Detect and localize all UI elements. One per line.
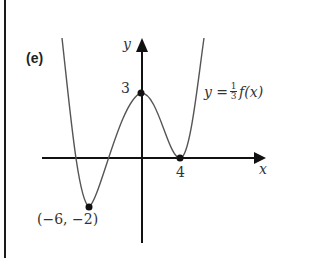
y-tick-3: 3 xyxy=(121,80,130,96)
eq-prefix: y = xyxy=(204,84,228,100)
eq-suffix: f(x) xyxy=(239,84,263,100)
min-point-label: (−6, −2) xyxy=(37,211,98,227)
eq-frac-den: 3 xyxy=(231,92,237,101)
y-axis-label: y xyxy=(123,36,131,52)
eq-fraction: 1 3 xyxy=(230,82,237,101)
point-4-0 xyxy=(177,155,184,162)
point-neg6-neg2 xyxy=(86,204,93,211)
curve-y-one-third-f xyxy=(62,38,204,207)
point-0-3 xyxy=(138,90,145,97)
eq-frac-num: 1 xyxy=(231,82,237,91)
x-axis-label: x xyxy=(259,161,267,177)
curve-equation-label: y = 1 3 f(x) xyxy=(204,82,263,101)
x-tick-4: 4 xyxy=(176,164,185,180)
y-axis-arrow-icon xyxy=(136,38,148,52)
